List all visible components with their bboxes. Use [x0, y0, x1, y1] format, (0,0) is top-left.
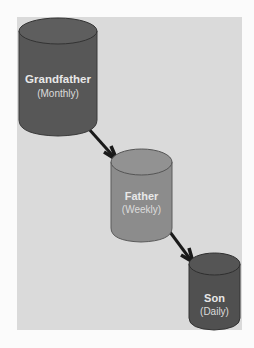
son-sublabel: (Daily): [200, 306, 229, 317]
cylinder-father: Father (Weekly): [111, 149, 172, 242]
cylinder-son: Son (Daily): [189, 253, 240, 330]
gfs-diagram: Grandfather (Monthly) Father (Weekly) So…: [0, 0, 254, 348]
arrow-father-to-son: [170, 232, 193, 262]
father-label: Father: [125, 190, 159, 202]
grandfather-sublabel: (Monthly): [37, 88, 79, 99]
cylinder-grandfather: Grandfather (Monthly): [19, 18, 97, 136]
grandfather-label: Grandfather: [25, 73, 91, 85]
father-sublabel: (Weekly): [122, 204, 161, 215]
arrow-grandfather-to-father: [88, 128, 117, 160]
son-label: Son: [204, 292, 225, 304]
